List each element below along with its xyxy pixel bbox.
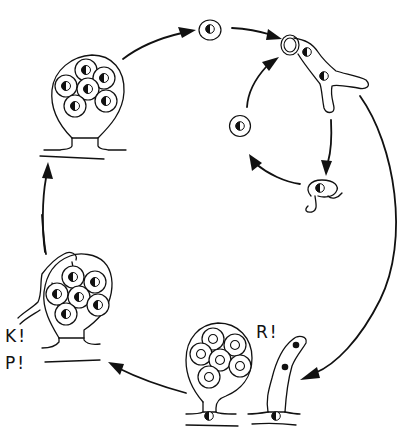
encysted-spore: [230, 116, 251, 137]
arrow-thallus-to-zoospore: [321, 120, 332, 176]
label-k: K!: [5, 328, 27, 345]
germinating-thallus: [281, 35, 368, 113]
free-spore-top: [199, 20, 221, 40]
sporangium-bottom-center: [186, 323, 252, 426]
arrow-cyst-to-thallus: [247, 57, 279, 107]
sporangium-bottom-left: [18, 252, 112, 362]
arrow-zoospore-to-cyst: [249, 154, 300, 184]
arrow-spore-to-thallus: [232, 28, 282, 40]
label-r: R!: [256, 324, 279, 341]
hypha-with-nuclei: [248, 336, 306, 425]
arrow-bottom-to-left: [108, 362, 186, 393]
flagellated-zoospore: [306, 180, 342, 212]
life-cycle-diagram: K! P! R!: [0, 0, 411, 437]
sporangium-top-left: [40, 55, 126, 159]
arrow-thallus-to-hypha: [300, 96, 396, 380]
label-p: P!: [5, 355, 26, 372]
arrow-sporangium-to-spore: [123, 27, 196, 59]
